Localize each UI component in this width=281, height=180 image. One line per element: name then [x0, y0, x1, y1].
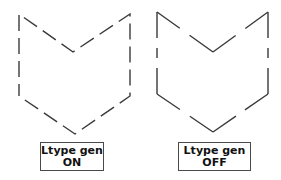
label-title: Ltype gen — [184, 145, 246, 157]
segment-top-left-diagonal — [157, 12, 213, 52]
label-ltype-gen-off: Ltype gen OFF — [178, 142, 251, 171]
segment-top-right-diagonal — [213, 12, 268, 52]
label-state: OFF — [202, 157, 226, 169]
label-state: ON — [63, 157, 82, 169]
label-ltype-gen-on: Ltype gen ON — [40, 142, 104, 171]
label-title: Ltype gen — [41, 145, 103, 157]
polyline-ltype-gen-on — [19, 14, 130, 134]
segment-bottom-right-diagonal — [213, 94, 268, 132]
segment-bottom-left-diagonal — [157, 94, 213, 132]
polyline-ltype-gen-off — [157, 12, 268, 132]
